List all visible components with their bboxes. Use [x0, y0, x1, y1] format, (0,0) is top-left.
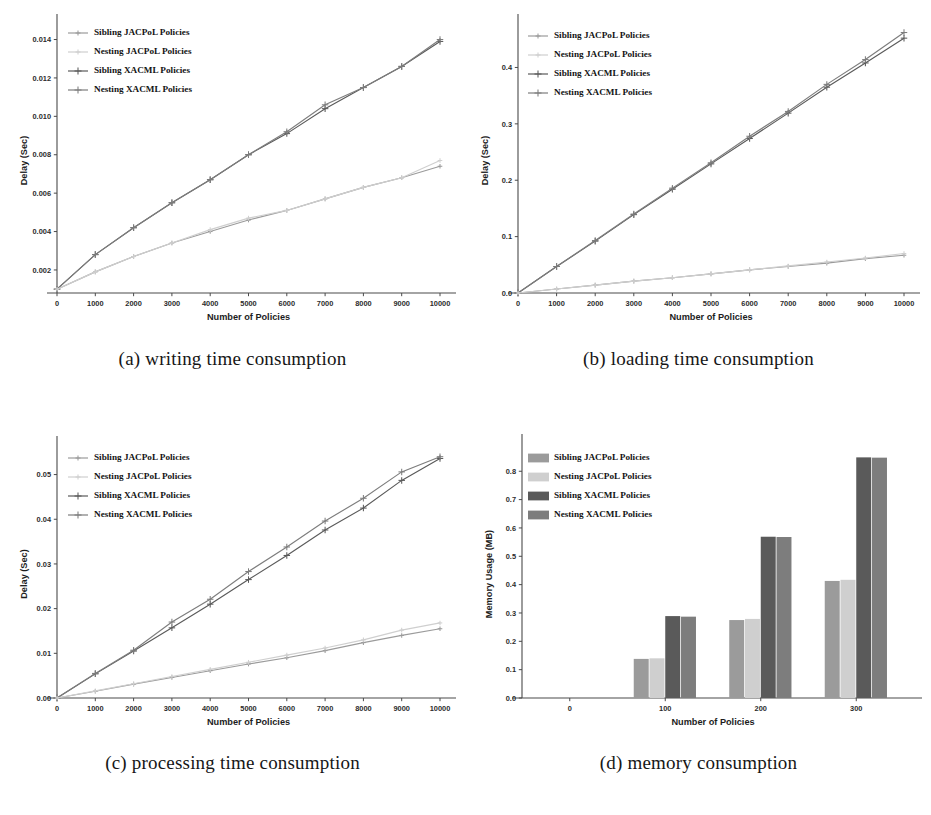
y-tick-label: 0.0 — [506, 694, 516, 703]
y-tick-label: 0.0 — [502, 289, 512, 298]
x-tick-label: 7000 — [317, 704, 333, 713]
series-line — [57, 166, 440, 289]
legend-label: Sibling JACPoL Policies — [554, 30, 650, 40]
legend-item[interactable]: Sibling JACPoL Policies — [68, 27, 190, 37]
bar — [681, 617, 696, 698]
legend-label: Nesting JACPoL Policies — [554, 49, 652, 59]
axes: 0.0020.0040.0060.0080.0100.0120.01401000… — [33, 14, 457, 308]
x-tick-label: 2000 — [587, 299, 603, 308]
y-tick-label: 0.05 — [37, 470, 51, 479]
y-tick-label: 0.7 — [506, 495, 516, 504]
x-tick-label: 10000 — [430, 299, 451, 308]
legend-swatch-icon — [528, 454, 549, 463]
y-axis-title: Memory Usage (MB) — [484, 530, 494, 618]
legend-label: Nesting JACPoL Policies — [94, 46, 192, 56]
x-tick-label: 1000 — [87, 704, 103, 713]
x-tick-label: 300 — [850, 704, 862, 713]
legend-item[interactable]: Nesting JACPoL Policies — [68, 471, 192, 481]
y-tick-label: 0.010 — [33, 112, 52, 121]
subfigure-b: 0.00.10.20.30.40100020003000400050006000… — [466, 0, 931, 340]
x-tick-label: 10000 — [430, 704, 451, 713]
legend-item[interactable]: Nesting XACML Policies — [528, 509, 652, 519]
x-tick-label: 6000 — [279, 704, 295, 713]
y-tick-label: 0.8 — [506, 467, 516, 476]
legend-item[interactable]: Nesting JACPoL Policies — [528, 49, 652, 59]
y-tick-label: 0.1 — [506, 665, 516, 674]
y-tick-label: 0.3 — [502, 120, 512, 129]
y-tick-label: 0.012 — [33, 74, 52, 83]
legend-item[interactable]: Sibling JACPoL Policies — [528, 452, 650, 462]
legend-label: Nesting XACML Policies — [554, 509, 652, 519]
legend-item[interactable]: Nesting JACPoL Policies — [68, 46, 192, 56]
x-tick-label: 5000 — [240, 704, 256, 713]
x-tick-label: 5000 — [240, 299, 256, 308]
bar — [856, 457, 871, 698]
legend-item[interactable]: Nesting JACPoL Policies — [528, 471, 652, 481]
y-tick-label: 0.008 — [33, 150, 52, 159]
legend-label: Sibling JACPoL Policies — [94, 452, 190, 462]
series-2 — [516, 251, 907, 295]
y-tick-label: 0.02 — [37, 604, 51, 613]
legend-item[interactable]: Sibling XACML Policies — [528, 68, 650, 78]
legend-item[interactable]: Sibling XACML Policies — [528, 490, 650, 500]
caption-b: (b) loading time consumption — [466, 348, 931, 370]
bar — [634, 659, 649, 698]
y-tick-label: 0.3 — [506, 609, 516, 618]
legend-label: Sibling JACPoL Policies — [554, 452, 650, 462]
legend-item[interactable]: Nesting XACML Policies — [68, 84, 192, 94]
caption-c: (c) processing time consumption — [0, 752, 465, 774]
series-line — [57, 40, 440, 290]
legend-swatch-icon — [528, 511, 549, 520]
legend-item[interactable]: Sibling XACML Policies — [68, 490, 190, 500]
figure-sheet: 0.0020.0040.0060.0080.0100.0120.01401000… — [0, 0, 931, 815]
legend-label: Sibling XACML Policies — [554, 490, 650, 500]
x-tick-label: 8000 — [355, 704, 371, 713]
y-tick-label: 0.00 — [37, 694, 51, 703]
series-2 — [55, 158, 443, 291]
x-tick-label: 3000 — [164, 299, 180, 308]
y-tick-label: 0.4 — [506, 580, 517, 589]
x-tick-label: 2000 — [125, 299, 141, 308]
x-tick-label: 5000 — [703, 299, 719, 308]
y-tick-label: 0.01 — [37, 649, 51, 658]
legend-label: Nesting JACPoL Policies — [94, 471, 192, 481]
series-1 — [55, 164, 443, 291]
x-tick-label: 100 — [659, 704, 671, 713]
x-tick-label: 8000 — [819, 299, 835, 308]
x-tick-label: 0 — [55, 299, 59, 308]
legend-item[interactable]: Sibling JACPoL Policies — [528, 30, 650, 40]
bar — [777, 537, 792, 698]
x-tick-label: 4000 — [202, 704, 218, 713]
legend-item[interactable]: Nesting XACML Policies — [528, 87, 652, 97]
y-tick-label: 0.6 — [506, 524, 516, 533]
y-tick-label: 0.03 — [37, 560, 51, 569]
legend-label: Sibling XACML Policies — [554, 68, 650, 78]
legend: Sibling JACPoL PoliciesNesting JACPoL Po… — [528, 30, 652, 97]
legend-item[interactable]: Sibling JACPoL Policies — [68, 452, 190, 462]
legend: Sibling JACPoL PoliciesNesting JACPoL Po… — [68, 27, 192, 94]
y-tick-label: 0.1 — [502, 232, 512, 241]
y-tick-label: 0.5 — [506, 552, 516, 561]
y-axis-title: Delay (Sec) — [19, 136, 29, 186]
x-tick-label: 3000 — [164, 704, 180, 713]
subfigure-a: 0.0020.0040.0060.0080.0100.0120.01401000… — [0, 0, 465, 340]
caption-d: (d) memory consumption — [466, 752, 931, 774]
legend-label: Nesting XACML Policies — [94, 509, 192, 519]
legend-swatch-icon — [528, 492, 549, 501]
x-tick-label: 0 — [516, 299, 520, 308]
x-tick-label: 9000 — [393, 299, 409, 308]
y-tick-label: 0.014 — [33, 35, 52, 44]
legend-label: Nesting XACML Policies — [554, 87, 652, 97]
chart-a-canvas: 0.0020.0040.0060.0080.0100.0120.01401000… — [0, 0, 465, 340]
series-line — [57, 161, 440, 290]
x-tick-label: 6000 — [279, 299, 295, 308]
legend-item[interactable]: Sibling XACML Policies — [68, 65, 190, 75]
legend: Sibling JACPoL PoliciesNesting JACPoL Po… — [528, 452, 652, 519]
y-axis-title: Delay (Sec) — [19, 549, 29, 599]
chart-d-canvas: 0.00.10.20.30.40.50.60.70.80100200300Num… — [466, 420, 931, 745]
bar — [649, 658, 664, 698]
chart-c-canvas: 0.000.010.020.030.040.050100020003000400… — [0, 420, 465, 745]
legend-item[interactable]: Nesting XACML Policies — [68, 509, 192, 519]
legend-label: Nesting XACML Policies — [94, 84, 192, 94]
y-tick-label: 0.2 — [502, 176, 512, 185]
